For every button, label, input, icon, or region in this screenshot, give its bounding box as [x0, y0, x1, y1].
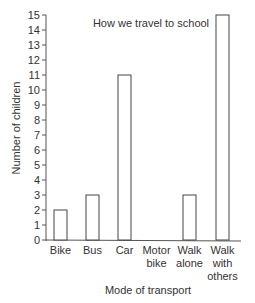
y-tick-label: 7	[34, 129, 40, 141]
y-tick-label: 9	[34, 99, 40, 111]
y-tick-label: 12	[28, 54, 40, 66]
y-tick-label: 2	[34, 204, 40, 216]
y-tick-label: 11	[29, 69, 40, 81]
bar	[118, 75, 131, 240]
category-label: Bike	[50, 244, 71, 256]
category-label: Motor	[142, 244, 170, 256]
y-tick-label: 0	[34, 234, 40, 246]
category-label: Bus	[83, 244, 102, 256]
y-tick-label: 4	[34, 174, 40, 186]
category-label: alone	[176, 257, 203, 269]
bar	[86, 195, 99, 240]
bar	[54, 210, 67, 240]
category-label: Car	[116, 244, 134, 256]
bar-chart: How we travel to school 0123456789101112…	[0, 0, 255, 303]
category-label: Walk	[210, 244, 235, 256]
y-tick-label: 8	[34, 114, 40, 126]
category-labels: BikeBusCarMotorbikeWalkaloneWalkwithothe…	[50, 244, 238, 282]
y-axis: 0123456789101112131415	[28, 9, 46, 246]
bar	[216, 15, 229, 240]
bar	[183, 195, 196, 240]
bars	[54, 15, 229, 240]
x-axis-line	[46, 240, 241, 241]
y-tick-label: 5	[34, 159, 40, 171]
y-tick-label: 15	[28, 9, 40, 21]
category-label: Walk	[177, 244, 202, 256]
x-axis-title: Mode of transport	[105, 284, 191, 296]
y-tick-label: 1	[34, 219, 40, 231]
x-axis	[46, 240, 241, 241]
y-tick-label: 14	[28, 24, 40, 36]
chart-title: How we travel to school	[93, 17, 209, 29]
y-tick-label: 13	[28, 39, 40, 51]
category-label: bike	[146, 257, 166, 269]
y-tick-label: 10	[28, 84, 40, 96]
y-tick-label: 3	[34, 189, 40, 201]
y-axis-title: Number of children	[10, 82, 22, 175]
category-label: others	[207, 270, 238, 282]
y-tick-label: 6	[34, 144, 40, 156]
category-label: with	[212, 257, 233, 269]
